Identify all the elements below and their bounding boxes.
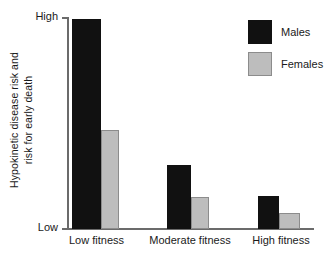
legend-item-females: Females <box>248 52 326 76</box>
bar-males-high-fitness <box>258 196 279 229</box>
bar-males-low-fitness <box>72 19 101 229</box>
legend-item-males: Males <box>248 20 326 44</box>
legend-swatch-females-icon <box>248 52 272 76</box>
y-axis-label-high: High <box>14 10 58 22</box>
y-axis-line <box>67 17 69 229</box>
bar-chart-figure: Hypokinetic disease risk and risk for ea… <box>0 0 329 256</box>
y-axis-label-low: Low <box>14 221 58 233</box>
y-axis-tick-high <box>62 17 68 19</box>
x-axis-label-high-fitness: High fitness <box>240 234 322 246</box>
bar-males-moderate-fitness <box>167 165 191 229</box>
legend-swatch-males-icon <box>248 20 272 44</box>
legend-label-females: Females <box>281 58 323 70</box>
bar-females-low-fitness <box>101 130 119 229</box>
y-axis-title: Hypokinetic disease risk and risk for ea… <box>0 0 40 232</box>
y-axis-title-line-2: risk for early death <box>21 76 35 164</box>
x-axis-label-moderate-fitness: Moderate fitness <box>142 234 238 246</box>
y-axis-tick-low <box>62 228 68 230</box>
y-axis-title-line-1: Hypokinetic disease risk and <box>7 52 21 188</box>
bar-females-high-fitness <box>279 213 300 229</box>
legend-label-males: Males <box>281 26 310 38</box>
chart-legend: Males Females <box>248 20 326 84</box>
x-axis-label-low-fitness: Low fitness <box>55 234 138 246</box>
bar-females-moderate-fitness <box>191 197 209 229</box>
